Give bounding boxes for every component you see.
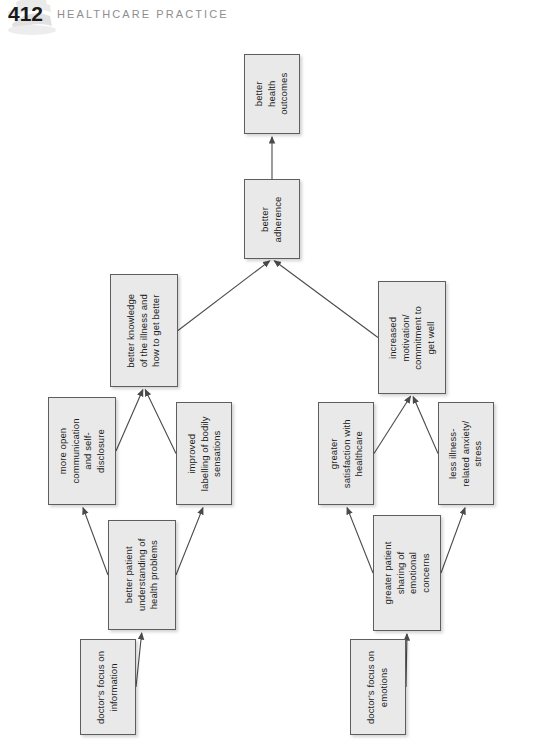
flow-node-greater-patient-sharing: greater patient sharing of emotional con… bbox=[373, 515, 441, 631]
flow-node-less-illness-anxiety: less illness- related anxiety/ stress bbox=[438, 402, 494, 505]
flow-node-better-patient-understanding: better patient understanding of health p… bbox=[108, 520, 176, 630]
flow-edge-doctor-focus-information-to-better-patient-understanding bbox=[136, 633, 142, 687]
flowchart-diagram: doctor's focus on informationdoctor's fo… bbox=[0, 34, 547, 751]
flow-node-label: better health outcomes bbox=[253, 73, 291, 115]
flow-edge-greater-patient-sharing-to-greater-satisfaction bbox=[347, 508, 373, 573]
flow-node-label: improved labelling of bodily sensations bbox=[185, 416, 223, 491]
flow-node-label: increased motivation/ commitment to get … bbox=[387, 306, 437, 370]
flow-node-greater-satisfaction: greater satisfaction with healthcare bbox=[318, 402, 374, 505]
flow-edge-increased-motivation-to-better-adherence bbox=[274, 261, 378, 338]
flow-node-better-health-outcomes: better health outcomes bbox=[244, 54, 300, 134]
flow-node-label: greater satisfaction with healthcare bbox=[327, 419, 365, 488]
flow-node-label: better adherence bbox=[260, 196, 285, 242]
flow-node-doctor-focus-information: doctor's focus on information bbox=[80, 639, 136, 735]
flow-node-increased-motivation: increased motivation/ commitment to get … bbox=[378, 281, 446, 394]
flow-edge-improved-labelling-to-better-knowledge bbox=[145, 390, 176, 454]
flow-edge-greater-patient-sharing-to-less-illness-anxiety bbox=[441, 508, 465, 573]
flow-node-label: less illness- related anxiety/ stress bbox=[447, 420, 485, 486]
flow-edge-greater-satisfaction-to-increased-motivation bbox=[374, 397, 410, 454]
running-head-title: HEALTHCARE PRACTICE bbox=[57, 8, 229, 20]
flow-edge-better-patient-understanding-to-more-open-communication bbox=[83, 508, 108, 575]
flow-node-label: more open communication and self- disclo… bbox=[57, 418, 107, 483]
flow-node-label: doctor's focus on emotions bbox=[366, 650, 391, 723]
flow-edge-doctor-focus-emotions-to-greater-patient-sharing bbox=[406, 634, 407, 687]
flow-node-improved-labelling: improved labelling of bodily sensations bbox=[176, 402, 232, 505]
page-number: 412 bbox=[8, 2, 43, 26]
flow-edge-less-illness-anxiety-to-increased-motivation bbox=[413, 397, 438, 454]
flow-edge-better-patient-understanding-to-improved-labelling bbox=[176, 508, 203, 575]
flow-node-better-adherence: better adherence bbox=[244, 179, 300, 259]
flow-edge-better-knowledge-to-better-adherence bbox=[178, 261, 270, 331]
flow-node-label: greater patient sharing of emotional con… bbox=[382, 542, 432, 605]
flow-node-label: doctor's focus on information bbox=[96, 650, 121, 723]
flow-node-label: better knowledge of the illness and how … bbox=[125, 294, 163, 368]
flow-edge-more-open-communication-to-better-knowledge bbox=[116, 390, 143, 451]
flow-node-better-knowledge: better knowledge of the illness and how … bbox=[110, 274, 178, 387]
flow-node-label: better patient understanding of health p… bbox=[123, 539, 161, 611]
flow-node-doctor-focus-emotions: doctor's focus on emotions bbox=[350, 639, 406, 735]
flow-node-more-open-communication: more open communication and self- disclo… bbox=[48, 397, 116, 505]
